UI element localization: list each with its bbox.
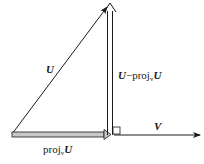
label-orth-component: U−projvU [118, 69, 162, 83]
vector-u-line [12, 7, 107, 134]
projection-arrow [12, 130, 111, 140]
label-v: V [154, 120, 163, 132]
label-projection: projvU [43, 143, 73, 157]
projection-diagram: U U−projvU V projvU [0, 0, 204, 164]
right-angle-marker [113, 127, 120, 134]
label-u: U [46, 63, 55, 75]
orthogonal-component-arrow [104, 3, 116, 135]
